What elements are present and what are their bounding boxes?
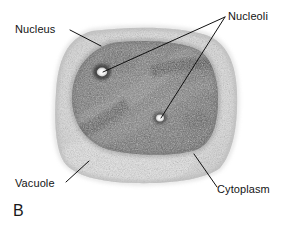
nucleolus-upper-core bbox=[97, 68, 107, 77]
nucleolus-upper bbox=[93, 64, 111, 80]
nucleolus-lower bbox=[153, 112, 167, 124]
figure-panel: Nucleus Nucleoli Vacuole Cytoplasm B bbox=[0, 0, 288, 226]
label-cytoplasm: Cytoplasm bbox=[217, 183, 270, 195]
label-nucleus: Nucleus bbox=[15, 23, 55, 35]
label-nucleoli: Nucleoli bbox=[228, 10, 268, 22]
label-vacuole: Vacuole bbox=[15, 177, 55, 189]
panel-letter: B bbox=[13, 202, 24, 220]
